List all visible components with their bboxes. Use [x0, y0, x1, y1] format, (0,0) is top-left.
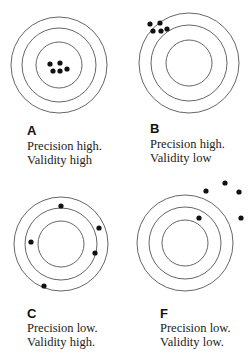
- hit-dot: [236, 189, 241, 194]
- target-ring-1: [139, 13, 239, 113]
- hit-dot: [47, 61, 52, 66]
- hit-dot: [41, 283, 46, 288]
- target-ring-3: [166, 40, 212, 86]
- caption-a-precision: Precision high.: [27, 140, 102, 153]
- panel-label-b: B: [150, 122, 159, 135]
- target-c: [14, 197, 108, 291]
- target-f: [137, 180, 244, 291]
- hit-dot: [147, 21, 152, 26]
- hit-dot: [57, 68, 62, 73]
- caption-b-validity: Validity low: [150, 152, 211, 165]
- panel-label-c: C: [27, 307, 36, 320]
- target-ring-1: [14, 197, 108, 291]
- hit-dot: [196, 215, 201, 220]
- hit-dot: [96, 225, 101, 230]
- caption-f-precision: Precision low.: [160, 322, 231, 335]
- panel-label-a: A: [27, 124, 36, 137]
- caption-c-validity: Validity high.: [27, 336, 95, 349]
- target-ring-1: [137, 195, 233, 291]
- panel-label-f: F: [160, 307, 168, 320]
- target-ring-2: [149, 207, 221, 279]
- caption-a-validity: Validity high: [27, 154, 92, 167]
- caption-f-validity: Validity low.: [160, 336, 224, 349]
- hit-dot: [203, 188, 208, 193]
- target-b: [139, 13, 239, 113]
- target-ring-3: [38, 221, 84, 267]
- hit-dot: [92, 250, 97, 255]
- hit-dot: [222, 180, 227, 185]
- target-a: [11, 17, 107, 113]
- hit-dot: [57, 60, 62, 65]
- hit-dot: [58, 203, 63, 208]
- hit-dot: [50, 68, 55, 73]
- hit-dot: [158, 28, 163, 33]
- caption-b-precision: Precision high.: [150, 138, 225, 151]
- caption-c-precision: Precision low.: [27, 322, 98, 335]
- hit-dot: [238, 215, 243, 220]
- target-ring-2: [151, 25, 227, 101]
- hit-dot: [157, 20, 162, 25]
- hit-dot: [28, 239, 33, 244]
- hit-dot: [164, 26, 169, 31]
- target-ring-3: [162, 220, 208, 266]
- hit-dot: [64, 66, 69, 71]
- hit-dot: [150, 28, 155, 33]
- target-ring-2: [25, 208, 97, 280]
- targets-diagram: [0, 0, 250, 356]
